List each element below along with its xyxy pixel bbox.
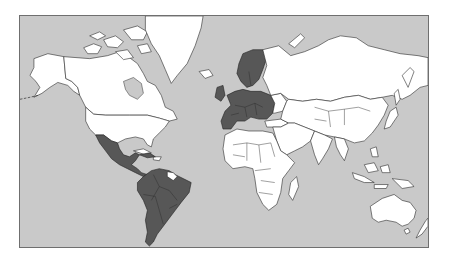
world-map: [19, 15, 429, 248]
map-canvas: [20, 16, 428, 247]
